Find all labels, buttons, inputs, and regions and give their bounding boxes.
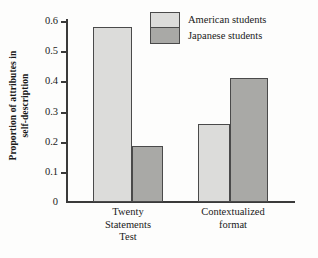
x-category-line2: Statements <box>88 219 168 232</box>
y-tick-label-0.6: 0.6 <box>32 16 58 27</box>
x-category-line2: format <box>185 219 281 232</box>
x-category-line1: Contextualized <box>185 206 281 219</box>
bar-contextualized-american <box>198 124 230 202</box>
y-tick-label-0.5: 0.5 <box>32 46 58 57</box>
y-tick-label-0.2: 0.2 <box>32 137 58 148</box>
y-tick-label-0: 0 <box>32 197 58 208</box>
x-category-label-twenty-statements-test: Twenty Statements Test <box>88 206 168 244</box>
y-axis-title-line1: Proportion of attributes in <box>9 50 19 160</box>
bar-twenty-statements-american <box>93 27 132 202</box>
legend-label-japanese: Japanese students <box>188 30 262 41</box>
x-category-label-contextualized-format: Contextualized format <box>185 206 281 231</box>
legend-swatch-japanese <box>151 28 179 43</box>
y-tick-label-0.1: 0.1 <box>32 167 58 178</box>
bar-group-container <box>66 21 294 202</box>
y-axis-tick-labels: 0.6 0.5 0.4 0.3 0.2 0.1 0 <box>30 0 58 258</box>
plot-area <box>66 21 294 202</box>
x-category-line3: Test <box>88 231 168 244</box>
legend-swatch-american <box>151 13 179 28</box>
x-category-line1: Twenty <box>88 206 168 219</box>
bar-contextualized-japanese <box>230 78 268 202</box>
y-tick-label-0.3: 0.3 <box>32 107 58 118</box>
bar-twenty-statements-japanese <box>132 146 163 202</box>
legend-label-american: American students <box>188 14 266 25</box>
bar-chart-figure: Proportion of attributes in self-descrip… <box>0 0 318 258</box>
legend-swatch-box <box>150 12 180 44</box>
y-tick-label-0.4: 0.4 <box>32 76 58 87</box>
